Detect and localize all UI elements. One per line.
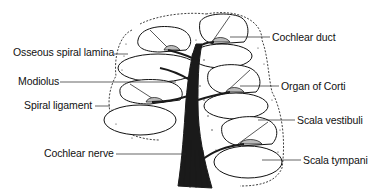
label-scala-vestibuli: Scala vestibuli bbox=[297, 114, 363, 126]
label-osseous-spiral-lamina: Osseous spiral lamina bbox=[13, 46, 114, 58]
cochlea-illustration bbox=[0, 0, 384, 196]
label-cochlear-duct: Cochlear duct bbox=[272, 31, 335, 43]
label-scala-tympani: Scala tympani bbox=[303, 154, 368, 166]
cochlea-diagram: Osseous spiral lamina Modiolus Spiral li… bbox=[0, 0, 384, 196]
label-cochlear-nerve: Cochlear nerve bbox=[44, 147, 114, 159]
left-lower-turn bbox=[104, 80, 182, 136]
left-upper-turn bbox=[118, 27, 198, 83]
label-organ-of-corti: Organ of Corti bbox=[281, 80, 346, 92]
label-modiolus: Modiolus bbox=[18, 75, 59, 87]
label-spiral-ligament: Spiral ligament bbox=[24, 99, 92, 111]
